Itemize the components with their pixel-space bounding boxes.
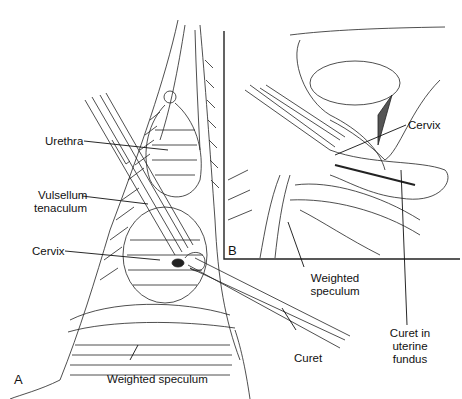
label-urethra: Urethra xyxy=(45,135,83,148)
label-weighted: Weighted xyxy=(310,272,360,285)
label-curet-in: Curet in xyxy=(385,327,435,340)
label-curet: Curet xyxy=(294,352,322,365)
panel-b-drawing xyxy=(228,27,448,258)
panel-b-frame xyxy=(224,31,460,259)
figure: Urethra Vulsellum tenaculum Cervix Curet… xyxy=(0,0,462,399)
panel-label-a: A xyxy=(14,372,23,387)
label-tenaculum: tenaculum xyxy=(34,202,87,215)
label-vulsellum: Vulsellum xyxy=(38,189,87,202)
label-cervix-b: Cervix xyxy=(408,119,441,132)
label-curet-fundus: Curet in uterine fundus xyxy=(385,327,435,366)
label-speculum: speculum xyxy=(310,285,360,298)
label-uterine: uterine xyxy=(385,340,435,353)
label-cervix-a: Cervix xyxy=(32,245,65,258)
label-fundus: fundus xyxy=(385,353,435,366)
label-weighted-speculum-b: Weighted speculum xyxy=(310,272,360,298)
label-weighted-speculum-a: Weighted speculum xyxy=(107,373,208,386)
panel-label-b: B xyxy=(228,243,237,258)
